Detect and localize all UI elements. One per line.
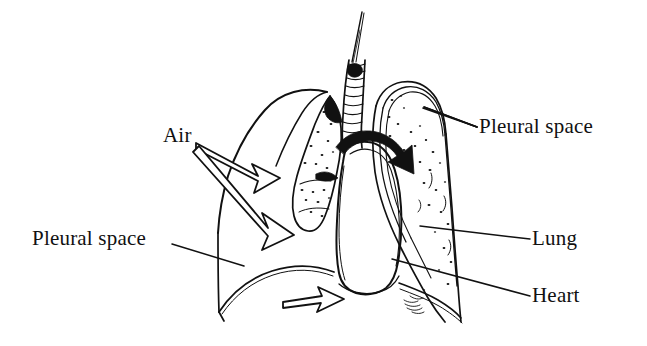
label-air: Air xyxy=(163,125,192,146)
figure-canvas: Pleural space Lung Heart Pleural space A… xyxy=(0,0,647,346)
label-pleural-space-left: Pleural space xyxy=(32,228,146,249)
label-heart: Heart xyxy=(532,285,580,306)
label-lung: Lung xyxy=(532,228,577,249)
label-pleural-space-right: Pleural space xyxy=(479,116,593,137)
